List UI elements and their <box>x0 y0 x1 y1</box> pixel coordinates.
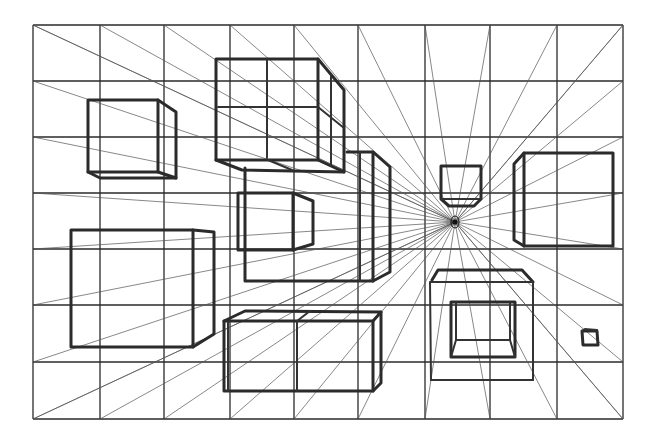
perspective-ray <box>455 222 623 305</box>
perspective-drawing <box>0 0 651 447</box>
box-center-left-small <box>238 193 313 250</box>
perspective-ray <box>455 222 557 419</box>
box-top-left-small <box>88 100 176 178</box>
perspective-ray <box>455 222 490 419</box>
box-top-center-stacked <box>216 59 344 172</box>
perspective-rays <box>33 25 623 419</box>
box-tiny-right <box>582 329 598 345</box>
perspective-ray <box>455 222 623 419</box>
box-left-large <box>71 230 214 347</box>
box-center-right-small <box>441 166 481 206</box>
grid <box>33 25 623 419</box>
